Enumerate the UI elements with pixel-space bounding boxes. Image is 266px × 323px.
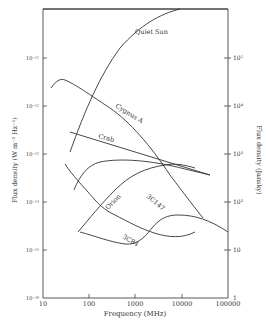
x-tick-label: 100 [83,300,95,308]
x-tick-label: 10 [39,300,47,308]
right-axis-label: Flux density (Jansky) [255,125,263,195]
flux-density-chart: 10 100 1000 10000 100000 Frequency (MHz)… [0,0,266,323]
left-tick-label: 10⁻²¹ [26,55,39,61]
left-axis-label: Flux density (W m⁻² Hz⁻¹) [11,117,19,203]
series-labels: Quiet Sun Cygnus A Crab Orion 3C147 3C84 [97,28,167,248]
right-tick-label: 10² [233,198,244,205]
left-tick-label: 10⁻²⁵ [26,247,39,253]
right-axis-ticks [224,58,231,250]
left-tick-label: 10⁻²⁶ [26,295,39,301]
label-3c84: 3C84 [121,233,140,249]
left-tick-label: 10⁻²⁴ [26,199,39,205]
right-axis-tick-labels: 1 10 10² 10³ 10⁴ 10⁵ [233,54,244,301]
x-axis-label: Frequency (MHz) [104,310,167,318]
x-tick-label: 10000 [172,300,193,308]
left-tick-label: 10⁻²² [26,103,39,109]
right-tick-label: 10⁵ [233,54,244,61]
left-tick-label: 10⁻²³ [26,151,39,157]
right-tick-label: 10⁴ [233,102,244,109]
series-3c84 [80,215,228,244]
label-crab: Crab [97,132,115,144]
label-orion: Orion [104,193,123,212]
right-tick-label: 10³ [233,150,244,157]
label-3c147: 3C147 [145,192,167,212]
series-hump [74,160,210,190]
series-3c147 [65,164,195,237]
label-quiet-sun: Quiet Sun [135,28,168,36]
left-axis-ticks [43,58,47,250]
right-tick-label: 1 [233,294,237,301]
right-tick-label: 10 [233,246,241,253]
x-tick-label: 100000 [216,300,241,308]
x-axis-ticks [89,294,182,298]
series-crab [70,132,210,175]
series-cygnus-a [51,79,203,218]
plot-frame [43,9,228,298]
x-axis-tick-labels: 10 100 1000 10000 100000 [39,300,241,308]
label-cygnus-a: Cygnus A [114,102,145,126]
left-axis-tick-labels: 10⁻²⁶ 10⁻²⁵ 10⁻²⁴ 10⁻²³ 10⁻²² 10⁻²¹ [26,55,39,301]
series-orion [78,164,195,232]
x-tick-label: 1000 [127,300,144,308]
